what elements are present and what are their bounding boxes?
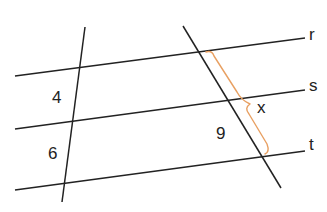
- right-transversal: [183, 26, 281, 188]
- line-label-s: s: [309, 76, 318, 95]
- left-lower-segment-label: 6: [48, 144, 57, 163]
- parallel-lines-diagram: rst469x: [0, 0, 327, 212]
- left-transversal: [62, 27, 85, 202]
- line-label-t: t: [309, 135, 314, 154]
- parallel-line-r: [15, 38, 305, 76]
- brace-segment-label: x: [257, 98, 266, 117]
- right-lower-segment-label: 9: [216, 124, 225, 143]
- line-label-r: r: [309, 25, 315, 44]
- left-upper-segment-label: 4: [52, 88, 61, 107]
